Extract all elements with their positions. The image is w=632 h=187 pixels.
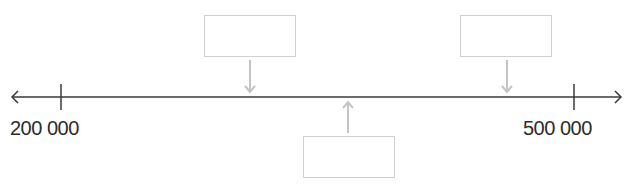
number-line-diagram: 200 000 500 000 [0, 0, 632, 187]
max-label: 500 000 [523, 117, 592, 140]
answer-box-3[interactable] [303, 136, 395, 178]
answer-box-1[interactable] [204, 15, 296, 57]
pointer-arrow-box-3 [343, 102, 353, 133]
pointer-arrow-box-1 [245, 60, 255, 92]
min-label: 200 000 [10, 117, 79, 140]
pointer-arrow-box-2 [502, 60, 512, 92]
answer-box-2[interactable] [460, 15, 552, 57]
